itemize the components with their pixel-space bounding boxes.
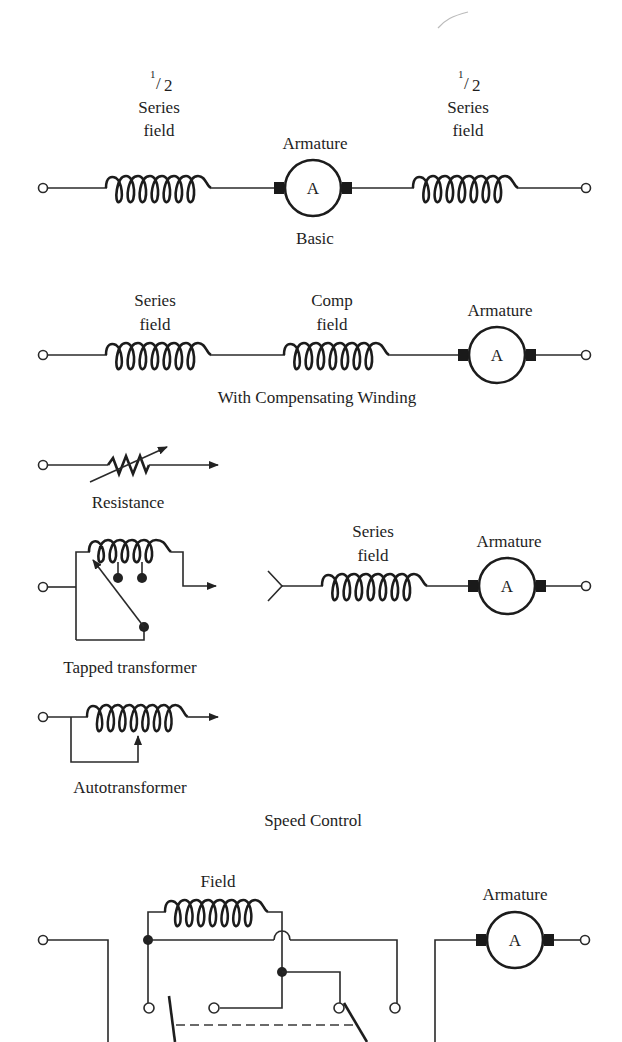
series-field-coil-icon [322,574,427,600]
basic-armature-label: Armature [282,134,347,153]
comp-series-label-line2: field [139,315,171,334]
terminal-icon [582,184,591,193]
basic-left-fraction-num: 1 [150,68,156,80]
field-coil-icon [165,900,268,926]
switch-blade-icon[interactable] [169,996,175,1042]
autotransformer-coil-icon [87,705,188,731]
comp-series-label-line1: Series [134,291,176,310]
speed-control-motor: Series field Armature A [268,522,591,614]
brush-icon [476,934,486,946]
tap-arrow-icon [71,717,138,762]
terminal-icon [39,713,48,722]
series-field-coil-icon [106,343,211,369]
terminal-icon [39,184,48,193]
speed-control-section: Resistance Tapped transformer Autotra [39,447,591,830]
basic-right-fraction-slash: / [464,74,469,93]
series-field-coil-icon [106,176,211,202]
basic-right-fraction-den: 2 [472,76,481,95]
brush-icon [468,580,478,592]
rev-field-label: Field [201,872,236,891]
brush-icon [274,182,284,194]
terminal-icon [39,936,48,945]
tapped-transformer: Tapped transformer [39,540,217,677]
basic-left-label-line2: field [143,121,175,140]
compensating-circuit: Series field Comp field Armature A With … [39,291,591,407]
basic-right-label-line1: Series [447,98,489,117]
brush-icon [544,934,554,946]
tap-dot-icon [137,573,147,583]
brush-icon [458,349,468,361]
fork-input-icon [268,571,282,601]
armature-glyph: A [307,179,320,198]
basic-right-fraction-num: 1 [458,68,464,80]
armature-glyph: A [491,346,504,365]
comp-field-label-line2: field [316,315,348,334]
comp-field-coil-icon [284,343,389,369]
variable-resistance: Resistance [39,447,219,512]
basic-circuit: 1 / 2 Series field 1 / 2 Series field Ar… [39,68,591,248]
terminal-icon [582,582,591,591]
comp-field-label-line1: Comp [311,291,353,310]
switch-terminal-icon [144,1003,154,1013]
series-field-coil-icon [413,176,518,202]
resistance-caption: Resistance [92,493,165,512]
brush-icon [526,349,536,361]
basic-right-label-line2: field [452,121,484,140]
basic-caption: Basic [296,229,334,248]
switch-terminal-icon [334,1003,344,1013]
terminal-icon [39,461,48,470]
tapped-caption: Tapped transformer [63,658,197,677]
autotransformer: Autotransformer [39,705,219,797]
dc-series-motor-diagram: 1 / 2 Series field 1 / 2 Series field Ar… [0,0,622,1042]
switch-blade-icon[interactable] [344,1003,367,1042]
comp-caption: With Compensating Winding [218,388,417,407]
tap-dot-icon [113,573,123,583]
sc-series-label-line2: field [357,546,389,565]
basic-left-label-line1: Series [138,98,180,117]
speed-control-caption: Speed Control [264,811,362,830]
auto-caption: Autotransformer [73,778,187,797]
switch-terminal-icon [209,1003,219,1013]
brush-icon [536,580,546,592]
terminal-icon [581,936,590,945]
rev-armature-label: Armature [482,885,547,904]
sc-armature-label: Armature [476,532,541,551]
transformer-coil-icon [89,540,171,562]
basic-left-fraction-den: 2 [164,76,173,95]
scratch-mark [438,12,468,28]
armature-glyph: A [509,931,522,950]
sc-series-label-line1: Series [352,522,394,541]
terminal-icon [39,351,48,360]
terminal-icon [39,583,48,592]
reversing-circuit: Field Armature A [39,872,590,1042]
comp-armature-label: Armature [467,301,532,320]
basic-left-fraction-slash: / [156,74,161,93]
armature-glyph: A [501,577,514,596]
switch-terminal-icon [390,1003,400,1013]
brush-icon [342,182,352,194]
terminal-icon [582,351,591,360]
